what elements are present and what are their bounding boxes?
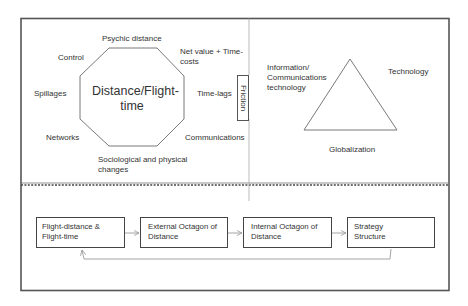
label-control: Control	[58, 53, 84, 63]
flow-box-flight-distance: Flight-distance & Flight-time	[36, 217, 125, 248]
flow-box-internal-octagon: Internal Octagon of Distance	[243, 217, 332, 248]
label-globalization: Globalization	[329, 145, 375, 155]
label-networks: Networks	[46, 133, 79, 143]
octagon-center-label: Distance/Flight-time	[92, 84, 172, 114]
friction-box: Friction	[237, 75, 249, 121]
label-communications: Communications	[185, 133, 245, 143]
label-technology: Technology	[388, 67, 428, 77]
friction-label: Friction	[239, 85, 248, 111]
label-spillages: Spillages	[34, 89, 66, 99]
flow-box-external-octagon: External Octagon of Distance	[140, 217, 228, 248]
label-psychic-distance: Psychic distance	[102, 34, 162, 44]
label-time-lags: Time-lags	[197, 89, 232, 99]
flow-box-strategy-structure: Strategy Structure	[347, 217, 435, 248]
label-net-value-time-costs: Net value + Time-costs	[180, 47, 256, 67]
label-sociological-physical-changes: Sociological and physical changes	[98, 155, 194, 175]
label-info-comm-technology: Information/ Communications technology	[267, 63, 331, 93]
feedback-arrow	[82, 249, 391, 259]
diagram-canvas	[0, 0, 468, 306]
